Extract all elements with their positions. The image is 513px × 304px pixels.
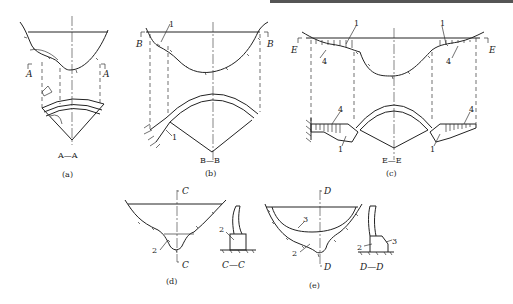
callout-b-1-bottom: 1: [172, 133, 177, 142]
callout-d-2-right: 2: [219, 225, 224, 234]
marker-d-top: C: [182, 186, 189, 196]
caption-d: (d): [166, 277, 177, 286]
section-label-d: C—C: [222, 260, 245, 270]
marker-b-right: B: [266, 39, 274, 49]
panel-d: C C 2 2 C—C (d): [125, 186, 256, 286]
section-label-b: B—B: [200, 156, 220, 165]
marker-a-right: A: [102, 69, 110, 79]
callout-c-4-top-left: 4: [322, 57, 327, 66]
callout-c-4-bottom-left: 4: [338, 105, 343, 114]
marker-b-left: B: [135, 39, 143, 49]
panel-a: A A A—A (a): [20, 16, 110, 179]
panel-c: E E 1 1 4 4 4 4 1 1 E—E (c): [290, 19, 496, 178]
callout-e-2-left: 2: [292, 249, 297, 258]
marker-a-left: A: [25, 69, 33, 79]
marker-c-left: E: [290, 45, 298, 55]
section-label-e: D—D: [359, 262, 383, 272]
callout-c-1-bottom-right: 1: [430, 145, 435, 154]
callout-e-3-right: 3: [392, 237, 397, 246]
callout-c-1-top-left: 1: [354, 19, 359, 28]
engineering-diagram: A A A—A (a) B B 1 1 B—B (b): [0, 0, 513, 304]
caption-c: (c): [386, 169, 397, 178]
callout-c-1-bottom-left: 1: [338, 145, 343, 154]
marker-e-bottom: D: [323, 262, 331, 272]
callout-d-2-left: 2: [152, 246, 157, 255]
callout-b-1-top: 1: [169, 20, 174, 29]
callout-c-4-top-right: 4: [446, 57, 451, 66]
marker-c-right: E: [488, 45, 496, 55]
marker-e-top: D: [323, 186, 331, 196]
callout-c-1-top-right: 1: [440, 19, 445, 28]
marker-d-bottom: C: [182, 260, 189, 270]
section-label-a: A—A: [57, 151, 78, 160]
section-label-c: E—E: [382, 156, 402, 165]
caption-b: (b): [205, 169, 216, 178]
callout-e-2-right: 2: [357, 243, 362, 252]
panel-e: D D 3 2 2 3 D—D (e): [265, 186, 397, 290]
caption-a: (a): [62, 170, 73, 179]
panel-b: B B 1 1 B—B (b): [135, 20, 274, 178]
callout-e-3-left: 3: [303, 215, 308, 224]
callout-c-4-bottom-right: 4: [469, 105, 474, 114]
caption-e: (e): [309, 281, 320, 290]
